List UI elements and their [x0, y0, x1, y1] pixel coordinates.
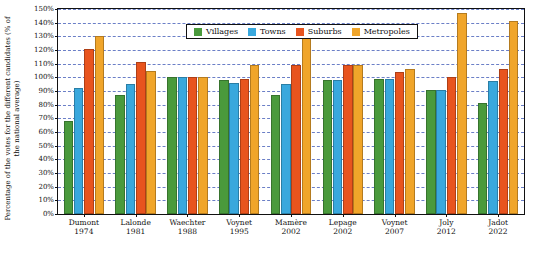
bar: [374, 79, 384, 214]
bar: [302, 38, 312, 214]
y-tick-label: 120%: [34, 46, 54, 54]
bar: [426, 90, 436, 214]
y-axis-label-wrap: Percentage of the votes for the differen…: [4, 10, 20, 225]
bar: [64, 121, 74, 214]
y-tick-label: 10%: [38, 196, 54, 204]
x-tick-mark: [343, 214, 344, 217]
x-tick-label: Lalonde 1981: [120, 218, 150, 236]
chart-legend: VillagesTownsSuburbsMetropoles: [186, 24, 418, 39]
x-tick-mark: [187, 214, 188, 217]
y-tick-label: 50%: [38, 142, 54, 150]
y-tick-label: 20%: [38, 183, 54, 191]
y-tick-label: 140%: [34, 19, 54, 27]
bar: [136, 62, 146, 214]
bar: [126, 84, 136, 214]
y-tick-label: 100%: [34, 73, 54, 81]
bar: [229, 83, 239, 214]
bar-group: Lalonde 1981: [110, 9, 162, 214]
bar: [95, 36, 105, 214]
legend-item: Suburbs: [296, 27, 342, 36]
y-tick-mark: [55, 214, 58, 215]
bar: [509, 21, 519, 214]
x-tick-label: Lepage 2002: [329, 218, 357, 236]
bar: [333, 80, 343, 214]
bar: [353, 65, 363, 214]
y-tick-label: 80%: [38, 101, 54, 109]
bar: [281, 84, 291, 214]
x-tick-label: Waechter 1988: [169, 218, 205, 236]
bar: [488, 81, 498, 214]
y-tick-label: 60%: [38, 128, 54, 136]
bar-group: Voynet 1995: [213, 9, 265, 214]
bar-group: Joly 2012: [420, 9, 472, 214]
bar: [343, 65, 353, 214]
bar: [436, 90, 446, 214]
plot-area: 0%10%20%30%40%50%60%70%80%90%100%110%120…: [57, 8, 525, 215]
y-axis-label: Percentage of the votes for the differen…: [4, 11, 21, 226]
bar: [291, 65, 301, 214]
legend-swatch: [248, 28, 256, 36]
bar-group: Voynet 2007: [369, 9, 421, 214]
bar: [219, 80, 229, 214]
x-tick-mark: [84, 214, 85, 217]
legend-swatch: [194, 28, 202, 36]
bar-groups: Dumont 1974Lalonde 1981Waechter 1988Voyn…: [58, 9, 524, 214]
bar: [198, 77, 208, 214]
x-tick-mark: [239, 214, 240, 217]
y-tick-label: 130%: [34, 32, 54, 40]
y-tick-label: 70%: [38, 114, 54, 122]
x-tick-label: Voynet 1995: [226, 218, 252, 236]
legend-item: Villages: [194, 27, 238, 36]
bar: [178, 77, 188, 214]
bar: [74, 88, 84, 214]
bar: [385, 79, 395, 214]
y-tick-label: 110%: [34, 60, 54, 68]
bar: [395, 72, 405, 214]
bar: [457, 13, 467, 214]
bar: [167, 77, 177, 214]
bar-group: Lepage 2002: [317, 9, 369, 214]
legend-swatch: [352, 28, 360, 36]
chart-root: Percentage of the votes for the differen…: [0, 0, 538, 267]
bar: [405, 69, 415, 214]
bar: [115, 95, 125, 214]
x-tick-mark: [395, 214, 396, 217]
bar: [499, 69, 509, 214]
x-tick-mark: [498, 214, 499, 217]
legend-label: Villages: [206, 27, 238, 36]
bar-group: Dumont 1974: [58, 9, 110, 214]
bar: [240, 79, 250, 214]
bar: [250, 65, 260, 214]
x-tick-mark: [136, 214, 137, 217]
x-tick-mark: [291, 214, 292, 217]
x-tick-label: Dumont 1974: [69, 218, 99, 236]
y-tick-label: 40%: [38, 155, 54, 163]
bar-group: Waechter 1988: [162, 9, 214, 214]
x-tick-label: Jadot 2022: [488, 218, 508, 236]
bar: [478, 103, 488, 214]
x-tick-mark: [446, 214, 447, 217]
bar-group: Mamère 2002: [265, 9, 317, 214]
x-tick-label: Mamère 2002: [275, 218, 307, 236]
bar: [84, 49, 94, 214]
bar: [323, 80, 333, 214]
legend-swatch: [296, 28, 304, 36]
bar: [447, 77, 457, 214]
bar: [146, 71, 156, 215]
legend-item: Metropoles: [352, 27, 410, 36]
legend-label: Towns: [260, 27, 286, 36]
legend-item: Towns: [248, 27, 286, 36]
bar: [188, 77, 198, 214]
bar-group: Jadot 2022: [472, 9, 524, 214]
legend-label: Suburbs: [308, 27, 342, 36]
y-tick-label: 30%: [38, 169, 54, 177]
x-tick-label: Joly 2012: [437, 218, 456, 236]
y-tick-label: 90%: [38, 87, 54, 95]
y-tick-label: 150%: [34, 5, 54, 13]
x-tick-label: Voynet 2007: [382, 218, 408, 236]
y-tick-label: 0%: [43, 210, 54, 218]
bar: [271, 95, 281, 214]
legend-label: Metropoles: [364, 27, 410, 36]
